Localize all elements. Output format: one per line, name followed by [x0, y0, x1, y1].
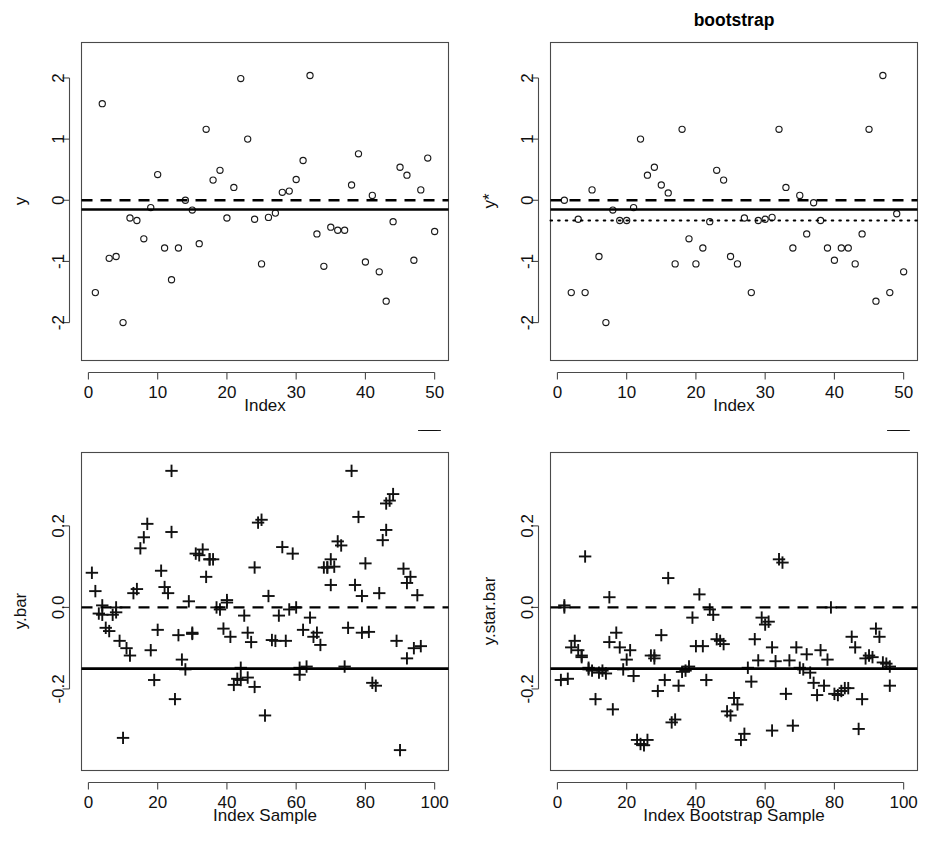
data-point — [686, 236, 692, 242]
data-point — [734, 261, 740, 267]
x-tick-label: 0 — [553, 383, 562, 402]
data-point — [672, 680, 684, 692]
data-point — [355, 151, 361, 157]
y-tick-label: 0.2 — [49, 514, 68, 538]
data-point — [314, 231, 320, 237]
data-point — [662, 572, 674, 584]
data-point — [307, 72, 313, 78]
data-point — [672, 261, 678, 267]
data-point — [325, 579, 337, 591]
data-point — [787, 719, 799, 731]
data-point — [859, 231, 865, 237]
data-point — [92, 290, 98, 296]
data-point — [873, 298, 879, 304]
reference-lines — [551, 200, 918, 220]
data-point — [790, 245, 796, 251]
data-point — [579, 550, 591, 562]
data-point — [145, 644, 157, 656]
data-point — [901, 269, 907, 275]
data-point — [700, 245, 706, 251]
data-point — [394, 744, 406, 756]
data-point — [821, 653, 833, 665]
data-point — [272, 210, 278, 216]
data-point — [411, 589, 423, 601]
axes: 020406080100-0.20.00.2 — [49, 514, 449, 811]
panel-top-left-svg: 01020304050-2-1012 Index y — [0, 0, 469, 430]
data-point — [328, 224, 334, 230]
data-point — [300, 660, 312, 672]
data-point — [127, 215, 133, 221]
x-tick-label: 50 — [894, 383, 913, 402]
data-point — [120, 319, 126, 325]
x-tick-label: 30 — [287, 383, 306, 402]
x-tick-label: 40 — [356, 383, 375, 402]
x-tick-label: 0 — [553, 793, 562, 812]
data-point — [286, 188, 292, 194]
data-point — [165, 465, 177, 477]
data-point — [655, 629, 667, 641]
data-point — [161, 245, 167, 251]
data-point — [849, 641, 861, 653]
y-tick-label: 2 — [49, 73, 68, 82]
data-point — [804, 231, 810, 237]
data-point — [217, 167, 223, 173]
data-point — [603, 319, 609, 325]
data-point — [783, 654, 795, 666]
data-point — [644, 172, 650, 178]
data-point — [304, 611, 316, 623]
data-point — [196, 241, 202, 247]
data-point — [297, 624, 309, 636]
x-tick-label: 20 — [617, 793, 636, 812]
data-point — [866, 126, 872, 132]
data-point — [884, 680, 896, 692]
x-tick-label: 30 — [756, 383, 775, 402]
y-axis-title: y* — [480, 193, 499, 209]
data-point — [183, 595, 195, 607]
data-point — [231, 184, 237, 190]
data-point — [658, 182, 664, 188]
data-point — [411, 257, 417, 263]
bootstrap-figure: 01020304050-2-1012 Index y bootstrap 010… — [0, 0, 938, 860]
data-point — [293, 176, 299, 182]
plot-frame — [82, 43, 449, 361]
plot-area-tl: 01020304050-2-1012 — [49, 43, 449, 402]
data-point — [390, 219, 396, 225]
data-point — [279, 189, 285, 195]
data-point — [814, 644, 826, 656]
data-point — [221, 594, 233, 606]
data-point — [838, 245, 844, 251]
panel-bottom-left-svg: 020406080100-0.20.00.2 Index Sample y.ba… — [0, 430, 469, 860]
data-point — [245, 136, 251, 142]
data-point — [99, 101, 105, 107]
data-point — [831, 257, 837, 263]
data-point — [342, 227, 348, 233]
y-tick-label: 1 — [518, 134, 537, 143]
data-point — [248, 681, 260, 693]
data-point — [293, 668, 305, 680]
data-point — [138, 531, 150, 543]
data-point — [335, 227, 341, 233]
data-point — [780, 688, 792, 700]
data-point — [117, 732, 129, 744]
data-point — [693, 261, 699, 267]
panel-bottom-right-svg: 020406080100-0.20.00.2 Index Bootstrap S… — [469, 430, 938, 860]
data-point — [259, 709, 271, 721]
data-point — [224, 215, 230, 221]
y-tick-label: -0.2 — [49, 674, 68, 703]
data-point — [134, 542, 146, 554]
data-point — [856, 693, 868, 705]
x-axis-title: Index — [244, 396, 286, 415]
data-point — [165, 526, 177, 538]
x-axis-title: Index Sample — [213, 806, 317, 825]
data-point — [186, 627, 198, 639]
data-point — [252, 216, 258, 222]
data-point — [748, 290, 754, 296]
data-point — [651, 164, 657, 170]
x-tick-label: 0 — [84, 383, 93, 402]
data-point — [397, 164, 403, 170]
data-point — [652, 685, 664, 697]
data-point — [575, 216, 581, 222]
data-point — [89, 585, 101, 597]
data-point — [248, 561, 260, 573]
y-tick-label: -2 — [518, 315, 537, 330]
